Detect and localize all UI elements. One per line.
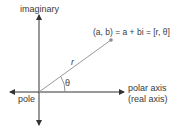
angle-label: θ xyxy=(65,78,70,88)
radius-label: r xyxy=(71,57,74,67)
polar-diagram xyxy=(0,0,178,131)
point-label: (a, b) = a + bi = [r, θ] xyxy=(93,27,170,37)
point-marker xyxy=(109,38,113,42)
imaginary-axis-label: imaginary xyxy=(20,4,59,14)
pole-label: pole xyxy=(18,94,35,104)
polar-axis-label: polar axis xyxy=(128,83,167,93)
real-axis-label: (real axis) xyxy=(128,94,168,104)
radius-ray xyxy=(39,40,111,92)
